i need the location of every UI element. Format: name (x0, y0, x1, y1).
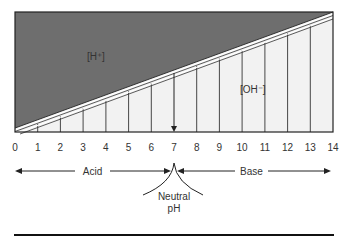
tick-label: 6 (149, 142, 155, 153)
tick-label: 7 (171, 142, 177, 153)
base-range-arrow: Base (177, 166, 331, 177)
hydrogen-ion-label: [H⁺] (87, 51, 105, 62)
tick-label: 3 (80, 142, 86, 153)
neutral-label-line2: pH (168, 203, 181, 214)
acid-range-arrow: Acid (15, 166, 171, 177)
tick-label: 9 (217, 142, 223, 153)
tick-label: 4 (103, 142, 109, 153)
tick-label: 13 (305, 142, 317, 153)
tick-label: 2 (58, 142, 64, 153)
tick-label: 0 (12, 142, 18, 153)
neutral-label-line1: Neutral (158, 191, 190, 202)
acid-label: Acid (83, 166, 102, 177)
base-label: Base (240, 166, 263, 177)
hydroxide-ion-label: [OH⁻] (240, 84, 266, 95)
tick-label: 1 (35, 142, 41, 153)
scale-labels: 0 1 2 3 4 5 6 7 8 9 10 11 12 13 14 (12, 142, 339, 153)
tick-label: 12 (282, 142, 294, 153)
ph-scale-diagram: [H⁺] [OH⁻] 0 1 2 3 4 5 6 7 8 9 10 11 12 … (0, 0, 349, 237)
tick-label: 5 (126, 142, 132, 153)
tick-label: 10 (237, 142, 249, 153)
tick-label: 11 (260, 142, 271, 153)
tick-label: 8 (194, 142, 200, 153)
tick-label: 14 (327, 142, 339, 153)
